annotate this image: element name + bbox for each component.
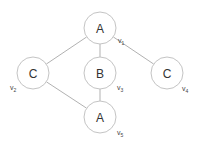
vertex-id-label: v3 <box>117 84 124 93</box>
node-label: C <box>29 67 38 81</box>
vertex-id-label: v2 <box>10 84 17 93</box>
vertex-id-label: v5 <box>117 129 124 138</box>
nodes-layer: Av1Cv2Bv3Cv4Av5 <box>10 12 189 138</box>
node-label: B <box>96 67 104 81</box>
edge-v2-v5 <box>46 82 86 108</box>
vertex-id-label: v4 <box>182 85 189 94</box>
node-v3: Bv3 <box>84 57 124 93</box>
node-label: A <box>96 22 104 36</box>
graph-diagram: Av1Cv2Bv3Cv4Av5 <box>0 0 199 146</box>
node-v5: Av5 <box>84 101 124 138</box>
node-v4: Cv4 <box>151 57 189 94</box>
edge-v1-v2 <box>46 37 86 64</box>
node-label: C <box>163 67 172 81</box>
node-label: A <box>96 111 104 125</box>
node-v1: Av1 <box>84 12 125 46</box>
vertex-id-label: v1 <box>118 37 125 46</box>
node-v2: Cv2 <box>10 57 49 93</box>
graph-canvas: Av1Cv2Bv3Cv4Av5 <box>0 0 199 146</box>
